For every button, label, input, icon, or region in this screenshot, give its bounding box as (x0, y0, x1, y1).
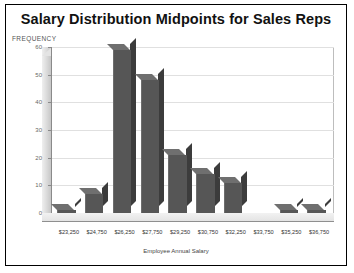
gridline (52, 130, 334, 131)
x-axis-tick-label: $26,250 (114, 229, 134, 235)
y-axis-tick-label: 40 (35, 99, 42, 105)
x-axis-tick-label: $36,750 (309, 229, 329, 235)
x-axis-tick-label: $23,250 (59, 229, 79, 235)
y-axis-line (51, 47, 52, 222)
bar (113, 50, 130, 213)
y-axis-tick-label: 30 (35, 127, 42, 133)
y-axis-tick-label: 20 (35, 155, 42, 161)
bar-front-face (168, 155, 186, 213)
bar (85, 194, 102, 213)
gridline (52, 75, 334, 76)
gridline (52, 158, 334, 159)
y-axis-tick-mark (48, 102, 52, 103)
bar (224, 183, 241, 213)
y-axis-tick-mark (48, 130, 52, 131)
y-axis-tick-mark (48, 47, 52, 48)
y-axis-tick-mark (48, 75, 52, 76)
y-axis-tick-mark (48, 185, 52, 186)
x-axis-tick-label: $33,750 (253, 229, 273, 235)
bar (168, 155, 185, 213)
bar-front-face (224, 183, 242, 213)
gridline (52, 185, 334, 186)
y-axis-title: FREQUENCY (12, 35, 56, 42)
gridline (52, 102, 334, 103)
y-axis-tick-label: 10 (35, 182, 42, 188)
bar-front-face (85, 194, 103, 213)
chart-title: Salary Distribution Midpoints for Sales … (6, 11, 346, 27)
x-axis-line (42, 221, 334, 222)
y-axis-tick-label: 60 (35, 44, 42, 50)
x-axis-tick-label: $32,250 (226, 229, 246, 235)
bar (196, 174, 213, 213)
chart-frame: Salary Distribution Midpoints for Sales … (5, 4, 347, 266)
x-axis-tick-label: $30,750 (198, 229, 218, 235)
y-axis-tick-label: 50 (35, 72, 42, 78)
x-axis-tick-label: $24,750 (87, 229, 107, 235)
bar (141, 80, 158, 213)
x-axis-tick-label: $29,250 (170, 229, 190, 235)
gridline (52, 47, 334, 48)
bar-front-face (141, 80, 159, 213)
bar-front-face (113, 50, 131, 213)
x-axis-tick-label: $27,750 (142, 229, 162, 235)
x-axis-title: Employee Annual Salary (6, 248, 346, 254)
bar-front-face (196, 174, 214, 213)
x-axis-tick-label: $35,250 (281, 229, 301, 235)
plot-area: 0102030405060 (42, 47, 334, 222)
y-axis-tick-mark (48, 158, 52, 159)
